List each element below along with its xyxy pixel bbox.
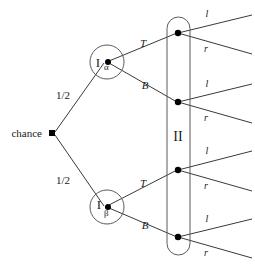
action-label-r-2: r (204, 112, 208, 123)
action-label-l-3: l (206, 145, 209, 156)
action-label-T-beta: T (140, 177, 147, 189)
edge-n3-l (178, 151, 252, 170)
edge-n1-r (178, 33, 252, 54)
action-label-r-1: r (204, 43, 208, 54)
node-sublabel-alpha: α (104, 62, 109, 72)
game-tree-figure: chance 1/2 1/2 I α I β T B T B II l r l … (0, 0, 255, 267)
node-player-two-1 (175, 30, 181, 36)
action-label-l-1: l (206, 8, 209, 19)
chance-node (49, 130, 55, 136)
node-player-two-2 (175, 99, 181, 105)
action-label-B-alpha: B (142, 79, 149, 91)
information-set-label-II: II (173, 129, 183, 144)
action-label-T-alpha: T (140, 37, 147, 49)
edge-chance-to-I-beta (55, 135, 104, 206)
action-label-r-3: r (204, 180, 208, 191)
action-label-l-2: l (206, 78, 209, 89)
probability-label-lower: 1/2 (56, 174, 70, 186)
action-label-r-4: r (204, 247, 208, 258)
chance-node-label: chance (11, 127, 42, 139)
node-label-I-beta: I (97, 197, 101, 212)
node-label-I-alpha: I (96, 55, 100, 70)
action-label-B-beta: B (142, 219, 149, 231)
edge-n3-r (178, 170, 252, 191)
action-label-l-4: l (206, 213, 209, 224)
node-player-two-3 (175, 167, 181, 173)
node-player-two-4 (175, 234, 181, 240)
player-two-edges (178, 15, 252, 258)
edge-n2-l (178, 84, 252, 102)
edge-n2-r (178, 102, 252, 123)
node-sublabel-beta: β (104, 208, 109, 218)
game-tree-canvas: chance 1/2 1/2 I α I β T B T B II l r l … (0, 0, 255, 267)
edge-n4-l (178, 219, 252, 237)
probability-label-upper: 1/2 (56, 89, 70, 101)
